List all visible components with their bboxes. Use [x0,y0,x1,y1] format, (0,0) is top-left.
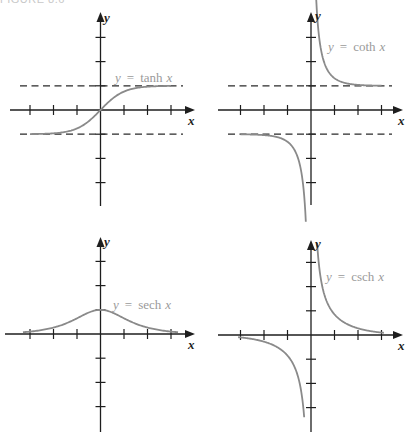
panel-coth: x y y=cothx [218,0,405,222]
panel-tanh: x y y=tanhx [10,10,195,206]
curve-branch [241,134,306,221]
y-axis-label: y [313,236,321,251]
y-arrow-icon [307,240,315,250]
y-axis-label: y [102,10,110,25]
x-axis-label: x [397,113,405,128]
panel-sech: x y y=sechx [5,234,195,432]
function-label: y=sechx [111,297,171,312]
figure: x y y=tanhx x y y=cothx x y y=sechx x y [0,0,411,437]
panel-csch: x y y=cschx [218,236,405,432]
function-label: y=tanhx [113,70,173,85]
y-arrow-icon [307,12,315,22]
x-axis-label: x [187,113,195,128]
curve-branch [238,337,304,417]
function-label: y=cschx [324,269,384,284]
x-axis-label: x [397,338,405,353]
axes [218,240,403,432]
axes [5,237,195,432]
x-axis-label: x [187,337,195,352]
y-axis-label: y [313,8,321,23]
y-axis-label: y [102,234,110,249]
curve-branch [317,243,384,333]
function-label: y=cothx [326,39,386,54]
